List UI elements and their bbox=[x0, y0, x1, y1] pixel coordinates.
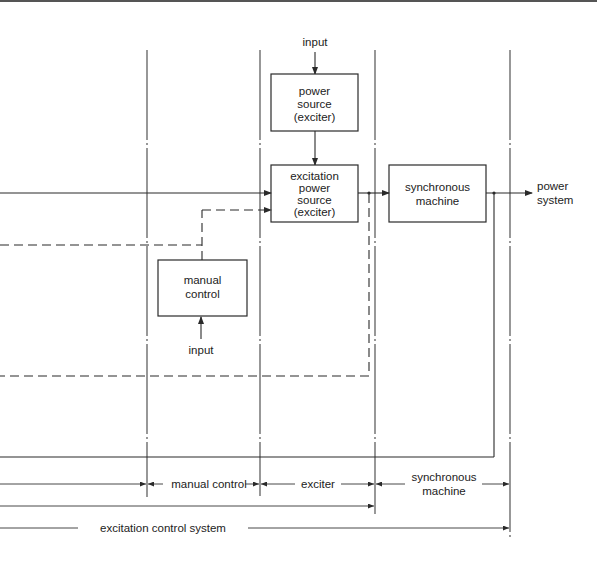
power-source-block: power source (exciter) bbox=[271, 74, 358, 131]
excitation-control-block-diagram: input power source (exciter) excitation … bbox=[0, 0, 607, 566]
dim-synchronous-label-1: synchronous bbox=[411, 471, 476, 483]
svg-text:(exciter): (exciter) bbox=[294, 111, 336, 123]
input-manual-label: input bbox=[189, 344, 215, 356]
input-top-label: input bbox=[303, 36, 329, 48]
dimension-annotations: manual control exciter synchronous machi… bbox=[0, 471, 509, 534]
dim-exciter-label: exciter bbox=[301, 478, 335, 490]
dim-excitation-control-system-label: excitation control system bbox=[100, 522, 226, 534]
manual-control-block: manual control bbox=[158, 260, 247, 316]
svg-text:power: power bbox=[299, 85, 330, 97]
svg-text:source: source bbox=[297, 194, 332, 206]
svg-text:excitation: excitation bbox=[290, 170, 339, 182]
machine-feedback-path bbox=[0, 193, 494, 457]
manual-control-dashed-path bbox=[0, 210, 271, 260]
svg-text:power: power bbox=[299, 182, 330, 194]
power-system-label-1: power bbox=[537, 180, 568, 192]
dim-manual-control-label: manual control bbox=[171, 478, 246, 490]
dim-synchronous-label-2: machine bbox=[422, 485, 465, 497]
svg-text:machine: machine bbox=[416, 195, 459, 207]
excitation-power-source-block: excitation power source (exciter) bbox=[271, 165, 358, 222]
svg-text:source: source bbox=[297, 98, 332, 110]
svg-text:control: control bbox=[185, 288, 220, 300]
svg-text:manual: manual bbox=[184, 274, 222, 286]
svg-text:(exciter): (exciter) bbox=[294, 206, 336, 218]
synchronous-machine-block: synchronous machine bbox=[389, 165, 486, 222]
svg-text:synchronous: synchronous bbox=[405, 181, 470, 193]
power-system-label-2: system bbox=[537, 194, 573, 206]
